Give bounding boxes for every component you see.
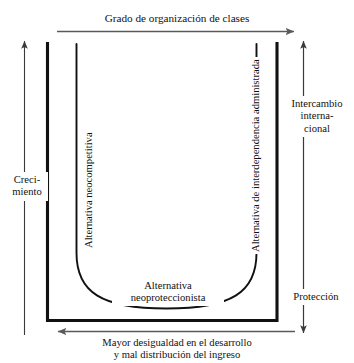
top-axis-label: Grado de organización de clases bbox=[0, 12, 354, 25]
left-axis-label-line1: Creci- bbox=[14, 174, 40, 185]
diagram-canvas: Grado de organización de clases Mayor de… bbox=[0, 0, 354, 363]
curve-label-neoprotectionist-line2: neoproteccionista bbox=[112, 292, 224, 304]
right-axis-label-line1: Intercambio bbox=[291, 98, 342, 109]
u-curve bbox=[77, 44, 257, 309]
bottom-axis-label-line1: Mayor desigualdad en el desarrollo bbox=[102, 337, 251, 348]
curve-label-neoprotectionist: Alternativa neoproteccionista bbox=[112, 279, 224, 306]
right-axis-label-exchange: Intercambio interna- cional bbox=[284, 96, 350, 137]
curve-label-neocompetitive: Alternativa neocompetitiva bbox=[82, 130, 95, 250]
diagram-graphics bbox=[0, 0, 354, 363]
right-axis-label-line3: cional bbox=[284, 123, 350, 135]
bottom-axis-label: Mayor desigualdad en el desarrollo y mal… bbox=[0, 337, 354, 362]
bottom-axis-label-line2: y mal distribución del ingreso bbox=[0, 349, 354, 361]
curve-label-neoprotectionist-line1: Alternativa bbox=[144, 280, 192, 291]
left-axis-label-line2: miento bbox=[6, 186, 48, 198]
curve-label-interdependence: Alternativa de interdependencia administ… bbox=[249, 57, 262, 254]
right-axis-label-protection: Protección bbox=[282, 289, 350, 305]
left-axis-label-growth: Creci- miento bbox=[6, 172, 48, 201]
right-axis-label-line2: interna- bbox=[284, 110, 350, 122]
